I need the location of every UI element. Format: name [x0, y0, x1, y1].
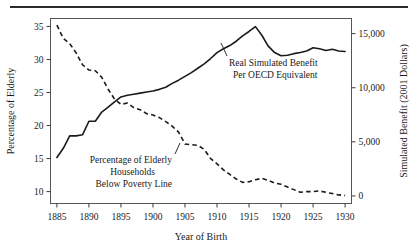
- y-axis-right-title: Simulated Benefit (2001 Dollars): [398, 44, 410, 178]
- y2-tick-label: 10,000: [359, 83, 385, 93]
- dashed-annotation-leader-line: [175, 143, 180, 154]
- x-tick-label: 1930: [336, 212, 355, 222]
- y-tick-label: 10: [34, 187, 44, 197]
- y-tick-label: 35: [34, 22, 44, 32]
- y-tick-label: 30: [34, 55, 44, 65]
- y-axis-right-ticks: [352, 34, 356, 196]
- x-tick-label: 1895: [111, 212, 130, 222]
- y-tick-label: 15: [34, 154, 44, 164]
- y-axis-left-tick-labels: 101520253035: [34, 22, 44, 197]
- series-real-simulated-benefit: [57, 27, 345, 158]
- x-axis-tick-labels: 1885189018951900190519101915192019251930: [47, 212, 354, 222]
- x-tick-label: 1900: [143, 212, 162, 222]
- x-tick-label: 1925: [304, 212, 323, 222]
- y-tick-label: 20: [34, 121, 44, 131]
- x-tick-label: 1885: [47, 212, 66, 222]
- y-axis-right-tick-labels: 05,00010,00015,000: [359, 29, 385, 201]
- x-tick-label: 1905: [175, 212, 194, 222]
- y2-tick-label: 15,000: [359, 29, 385, 39]
- series-percentage-below-poverty: [57, 25, 345, 195]
- y2-tick-label: 5,000: [359, 137, 381, 147]
- y-tick-label: 25: [34, 88, 44, 98]
- plot-frame: [51, 19, 352, 204]
- dashed-annotation-line-3: Below Poverty Line: [95, 179, 172, 189]
- x-axis-title: Year of Birth: [175, 231, 227, 242]
- dashed-annotation-line-1: Percentage of Elderly: [90, 155, 173, 165]
- figure-container: 1885189018951900190519101915192019251930…: [0, 0, 418, 251]
- dashed-annotation-line-2: Households: [110, 167, 155, 177]
- x-tick-label: 1910: [208, 212, 227, 222]
- x-axis-ticks: [57, 204, 345, 208]
- solid-annotation-line-1: Real Simulated Benefit: [229, 58, 318, 68]
- y-axis-left-title: Percentage of Elderly: [5, 68, 16, 155]
- x-tick-label: 1915: [240, 212, 259, 222]
- y2-tick-label: 0: [359, 191, 364, 201]
- chart-canvas: 1885189018951900190519101915192019251930…: [0, 0, 418, 251]
- x-tick-label: 1920: [272, 212, 291, 222]
- solid-annotation-line-2: Per OECD Equivalent: [233, 70, 318, 80]
- x-tick-label: 1890: [79, 212, 98, 222]
- y-axis-left-ticks: [47, 26, 51, 191]
